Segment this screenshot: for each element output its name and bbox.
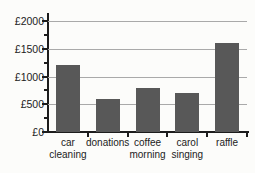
x-tick-2 — [127, 133, 129, 137]
y-tick-label-2000: £2000 — [0, 15, 44, 27]
y-tick-label-1500: £1500 — [0, 43, 44, 55]
bar-donations — [96, 99, 120, 132]
y-tick-1000 — [42, 76, 47, 78]
x-tick-1 — [87, 133, 89, 137]
bar-carol-singing — [175, 93, 199, 132]
y-tick-1500 — [42, 48, 47, 50]
x-tick-4 — [206, 133, 208, 137]
plot-area — [48, 21, 247, 132]
y-minor-tick-1750 — [44, 34, 47, 36]
y-minor-tick-1250 — [44, 62, 47, 64]
y-tick-label-1000: £1000 — [0, 71, 44, 83]
y-tick-2000 — [42, 20, 47, 22]
y-tick-500 — [42, 103, 47, 105]
y-tick-0 — [42, 131, 47, 133]
x-tick-3 — [166, 133, 168, 137]
x-label-raffle: raffle — [197, 137, 255, 149]
bar-coffee-morning — [136, 88, 160, 132]
bar-car-cleaning — [56, 65, 80, 132]
y-tick-label-500: £500 — [0, 98, 44, 110]
gridline-2000 — [48, 21, 247, 22]
bar-chart: £0£500£1000£1500£2000 car cleaningdonati… — [0, 0, 255, 173]
x-tick-5 — [246, 133, 248, 137]
y-minor-tick-250 — [44, 117, 47, 119]
bar-raffle — [215, 43, 239, 132]
y-minor-tick-750 — [44, 89, 47, 91]
